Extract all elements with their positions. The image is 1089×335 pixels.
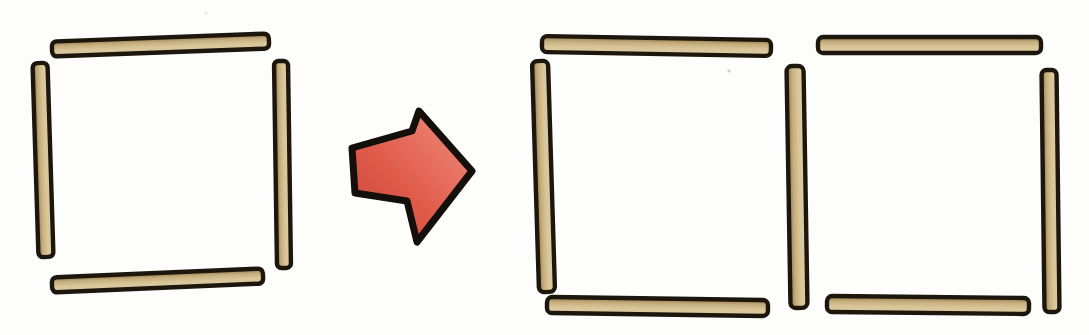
matchstick-bottom [52,269,264,293]
matchstick-right-square-right [1042,70,1060,312]
matchstick-left-square-bottom [547,297,768,316]
matchstick-right-square-bottom [827,296,1029,314]
matchstick-right-square-top [818,37,1041,53]
matchstick-left-square-left [532,61,555,292]
right-arrow-icon [352,111,472,242]
puzzle-illustration [0,0,1089,335]
matchstick-shared-middle [787,66,808,308]
puzzle-canvas [0,0,1089,335]
paper-speck [204,11,207,14]
matchstick-top [52,34,270,57]
after-figure [532,36,1059,316]
matchstick-left [33,63,54,257]
matchstick-right [274,61,291,268]
paper-speck [727,69,730,72]
transform-arrow [352,111,472,242]
before-figure [33,34,291,293]
matchstick-left-square-top [542,36,771,56]
